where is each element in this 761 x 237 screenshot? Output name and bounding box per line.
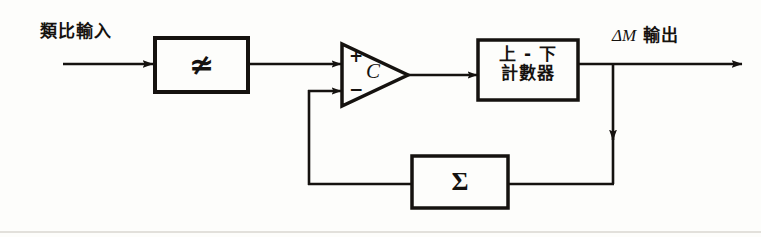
counter-label-line2: 計數器 (481, 64, 575, 83)
analog-input-label: 類比輸入 (40, 22, 112, 41)
comparator-minus-input-sign: − (348, 80, 364, 98)
summation-symbol: Σ (412, 160, 508, 204)
up-down-counter-label: 上 - 下計數器 (481, 45, 575, 83)
comparator-plus-input-sign: + (348, 47, 364, 65)
counter-label-line1: 上 - 下 (481, 45, 575, 64)
ac-signal-symbol: ≄ (155, 42, 248, 88)
diagram-canvas: 類比輸入 ΔM 輸出 上 - 下計數器 ≄ Σ C + − (0, 0, 761, 237)
output-suffix-label: 輸出 (643, 25, 679, 45)
delta-m-output-label: ΔM 輸出 (612, 26, 679, 45)
delta-m-symbol: ΔM (612, 26, 636, 45)
